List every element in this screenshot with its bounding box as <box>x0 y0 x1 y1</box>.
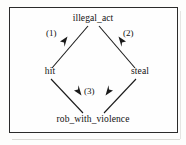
node-steal: steal <box>118 66 162 76</box>
edge-label-3: (3) <box>84 86 95 96</box>
node-rob-with-violence: rob_with_violence <box>0 114 186 124</box>
node-hit: hit <box>30 66 70 76</box>
edge-hit-to-rob-with-violence <box>51 79 83 113</box>
edge-steal-to-rob-with-violence <box>104 79 136 113</box>
diagram-canvas: illegal_act hit steal rob_with_violence … <box>0 0 186 145</box>
edge-label-2: (2) <box>123 28 134 38</box>
edge-hit-to-illegal-act <box>52 26 88 68</box>
node-illegal-act: illegal_act <box>0 13 186 23</box>
edge-label-1: (1) <box>46 28 57 38</box>
